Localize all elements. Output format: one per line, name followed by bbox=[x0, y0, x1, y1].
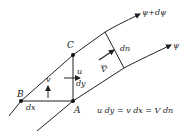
point-c-dot bbox=[71, 53, 75, 57]
lower-streamline-label: ψ bbox=[173, 42, 179, 50]
dn-label: dn bbox=[120, 45, 130, 53]
streamline-diagram: C A B u dy v dx dn V ψ+dψ ψ u dy = v dx … bbox=[0, 0, 182, 138]
point-b-dot bbox=[19, 99, 23, 103]
velocity-label: V bbox=[101, 66, 107, 74]
diagram-canvas bbox=[0, 0, 182, 138]
upper-streamline-label: ψ+dψ bbox=[142, 9, 166, 17]
dx-label: dx bbox=[26, 104, 36, 112]
equation: u dy = v dx = V dn bbox=[97, 107, 173, 115]
velocity-arrow bbox=[99, 50, 114, 60]
v-label: v bbox=[46, 76, 51, 84]
lower-streamline bbox=[37, 45, 171, 131]
point-a-label: A bbox=[74, 106, 81, 115]
u-label: u bbox=[77, 68, 82, 76]
point-a-dot bbox=[71, 99, 75, 103]
dy-label: dy bbox=[76, 80, 86, 88]
point-b-label: B bbox=[17, 90, 24, 99]
point-c-label: C bbox=[67, 41, 74, 50]
